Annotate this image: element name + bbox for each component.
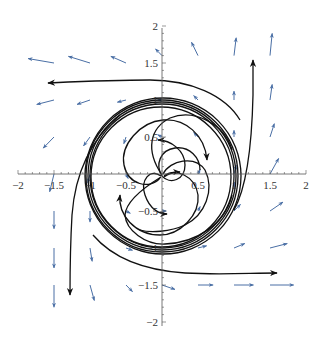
vector-arrow (198, 207, 200, 211)
x-tick-label: 2 (303, 179, 309, 191)
vector-arrow (111, 56, 126, 63)
vector-arrow (270, 244, 287, 248)
x-tick-label: 0.5 (191, 179, 205, 191)
vector-arrow (37, 100, 54, 104)
y-tick-label: 1.5 (144, 57, 158, 69)
trajectories (48, 60, 277, 295)
vector-arrow (270, 33, 272, 55)
vector-arrow (192, 42, 198, 55)
phase-portrait-plot: −2−1.5−1−0.50.511.5221.510.5−0.5−1−1.5−2 (0, 0, 327, 342)
vector-arrow (90, 248, 92, 261)
y-tick-label: −1 (146, 242, 158, 254)
vector-arrow (270, 158, 279, 174)
vector-arrow (28, 59, 54, 63)
x-tick-label: −1.5 (44, 179, 64, 191)
vector-arrow (162, 285, 175, 289)
vector-arrow (77, 100, 90, 104)
x-tick-label: −2 (12, 179, 24, 191)
axes (18, 28, 306, 326)
y-tick-label: −1.5 (138, 279, 158, 291)
y-tick-label: 0.5 (144, 131, 158, 143)
inner-spiral (152, 115, 232, 175)
y-tick-label: 1 (153, 94, 159, 106)
vector-arrow (270, 84, 272, 100)
vector-arrow (84, 137, 90, 146)
vector-arrow (126, 211, 130, 213)
vector-arrow (198, 246, 207, 248)
escape-trajectory-bottom-left (70, 115, 120, 295)
vector-arrow (198, 170, 200, 174)
vector-field (28, 33, 294, 307)
vector-arrow (90, 285, 94, 301)
vector-arrow (234, 244, 245, 248)
x-tick-label: −0.5 (116, 179, 136, 191)
vector-arrow (156, 49, 162, 56)
vector-arrow (124, 137, 126, 144)
vector-arrow (68, 56, 90, 63)
y-tick-label: 2 (153, 20, 159, 32)
vector-arrow (270, 202, 283, 211)
vector-arrow (194, 96, 198, 100)
vector-arrow (270, 124, 274, 137)
x-tick-label: −1 (84, 179, 96, 191)
vector-arrow (126, 285, 132, 292)
vector-arrow (126, 248, 132, 250)
vector-arrow (158, 135, 162, 137)
x-tick-label: 1 (231, 179, 237, 191)
axis-ticks (18, 26, 306, 322)
x-tick-label: 1.5 (263, 179, 277, 191)
vector-arrow (117, 100, 126, 102)
vector-arrow (234, 38, 236, 56)
vector-arrow (43, 137, 54, 148)
y-tick-label: −2 (146, 316, 158, 328)
y-tick-label: −0.5 (138, 205, 158, 217)
